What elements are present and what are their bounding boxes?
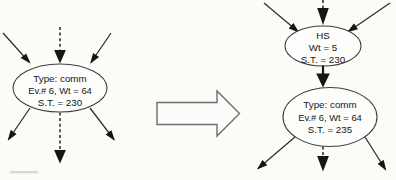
comm-node-before-type-label: Type: comm	[33, 73, 86, 84]
after-outgoing-dashed-arrowhead-icon	[317, 156, 329, 172]
before-incoming-edge-right-arrow	[91, 33, 111, 63]
hs-node-start-time-label: S.T. = 230	[301, 54, 346, 65]
after-outgoing-edge-left-arrow	[258, 137, 295, 169]
comm-node-after-start-time-label: S.T. = 235	[308, 124, 353, 135]
comm-node-before-start-time-label: S.T. = 230	[38, 97, 83, 108]
comm-node-after-type-label: Type: comm	[303, 99, 356, 110]
task-graph-transformation-figure: Type: comm Ev.# 6, Wt = 64 S.T. = 230 HS…	[0, 0, 396, 180]
before-incoming-edge-left-arrow	[3, 33, 30, 63]
before-outgoing-dashed-arrowhead-icon	[54, 150, 66, 164]
hs-to-comm-arrowhead-icon	[316, 74, 330, 88]
comm-node-after-event-weight-label: Ev.# 6, Wt = 64	[298, 112, 362, 123]
before-outgoing-edge-right-arrow	[90, 108, 114, 140]
after-incoming-edge-left-arrow	[264, 3, 298, 32]
before-incoming-dashed-arrowhead-icon	[54, 50, 66, 64]
scan-smudge-artifact	[10, 171, 38, 173]
before-subgraph: Type: comm Ev.# 6, Wt = 64 S.T. = 230	[3, 27, 114, 164]
after-incoming-dashed-arrowhead-icon	[317, 8, 329, 25]
hs-node-name-label: HS	[316, 30, 330, 41]
transform-right-block-arrow-icon	[157, 91, 240, 136]
after-outgoing-edge-right-arrow	[365, 137, 386, 170]
after-incoming-edge-right-arrow	[349, 3, 391, 32]
comm-node-before-event-weight-label: Ev.# 6, Wt = 64	[28, 85, 92, 96]
before-outgoing-edge-left-arrow	[9, 108, 31, 140]
after-subgraph: HS Wt = 5 S.T. = 230 Type: comm Ev.# 6, …	[258, 0, 390, 172]
hs-node-weight-label: Wt = 5	[309, 42, 338, 53]
